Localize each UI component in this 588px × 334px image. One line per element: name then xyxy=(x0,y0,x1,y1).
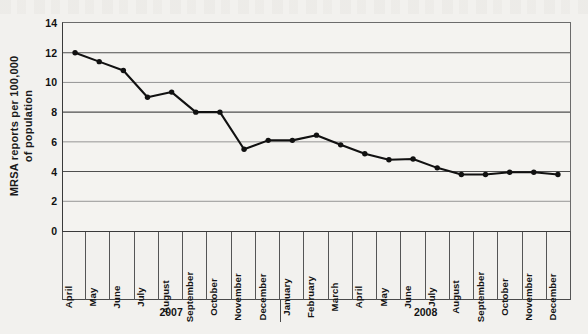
y-axis-title: MRSA reports per 100,000 of population xyxy=(2,18,40,234)
data-point xyxy=(266,138,271,143)
x-axis-month-cell: August xyxy=(159,232,183,300)
data-point xyxy=(169,89,174,94)
y-axis-title-line-2: of population xyxy=(21,56,35,197)
data-point xyxy=(410,156,415,161)
data-point xyxy=(290,138,295,143)
y-tick-12: 12 xyxy=(45,47,57,59)
x-axis-year-groups: 20072008 xyxy=(62,300,571,330)
year-divider xyxy=(280,300,281,322)
gridlines xyxy=(63,53,570,202)
year-group-2007: 2007 xyxy=(62,300,280,330)
x-axis-month-cell: August xyxy=(450,232,474,300)
data-point xyxy=(483,172,488,177)
data-markers xyxy=(72,50,560,177)
y-tick-4: 4 xyxy=(51,166,57,178)
x-axis-month-cell: November xyxy=(232,232,256,300)
data-point xyxy=(531,170,536,175)
scan-bleed-artifact xyxy=(0,0,588,14)
x-axis-month-cell: February xyxy=(304,232,328,300)
x-axis-month-cell: May xyxy=(86,232,110,300)
data-point xyxy=(193,109,198,114)
y-axis-title-line-1: MRSA reports per 100,000 xyxy=(8,56,22,197)
x-axis-month-cell: June xyxy=(110,232,134,300)
x-axis-month-cell: September xyxy=(474,232,498,300)
y-tick-6: 6 xyxy=(51,136,57,148)
x-axis-month-cell: October xyxy=(498,232,522,300)
data-point xyxy=(72,50,77,55)
data-point xyxy=(435,165,440,170)
data-point xyxy=(555,172,560,177)
x-axis-month-cell: July xyxy=(135,232,159,300)
year-label: 2008 xyxy=(414,306,437,318)
x-axis-month-cell: April xyxy=(62,232,86,300)
data-point xyxy=(362,151,367,156)
data-point xyxy=(459,172,464,177)
x-axis-month-cell: July xyxy=(426,232,450,300)
data-point xyxy=(97,59,102,64)
data-point xyxy=(507,170,512,175)
data-point xyxy=(217,109,222,114)
data-point xyxy=(338,142,343,147)
year-group-2008: 2008 xyxy=(280,300,571,330)
x-axis-month-labels: AprilMayJuneJulyAugustSeptemberOctoberNo… xyxy=(62,232,571,300)
x-axis-month-cell: September xyxy=(183,232,207,300)
x-axis-month-cell: June xyxy=(401,232,425,300)
x-axis-month-cell: May xyxy=(377,232,401,300)
y-tick-10: 10 xyxy=(45,76,57,88)
y-tick-8: 8 xyxy=(51,106,57,118)
x-axis-month-cell: December xyxy=(256,232,280,300)
chart-figure: MRSA reports per 100,000 of population 1… xyxy=(0,0,588,334)
data-point xyxy=(121,68,126,73)
data-point xyxy=(386,157,391,162)
y-tick-0: 0 xyxy=(51,225,57,237)
x-axis-month-cell: October xyxy=(207,232,231,300)
y-axis-tick-labels: 14121086420 xyxy=(36,0,60,334)
data-point xyxy=(145,95,150,100)
x-axis-month-cell: January xyxy=(280,232,304,300)
y-tick-14: 14 xyxy=(45,17,57,29)
plot-area xyxy=(62,22,571,232)
data-point xyxy=(241,147,246,152)
year-label: 2007 xyxy=(159,306,182,318)
data-point xyxy=(314,132,319,137)
line-chart-svg xyxy=(63,23,570,231)
y-tick-2: 2 xyxy=(51,195,57,207)
x-axis-month-cell: December xyxy=(547,232,571,300)
x-axis-month-cell: March xyxy=(329,232,353,300)
x-axis-month-cell: April xyxy=(353,232,377,300)
data-line-mrsa xyxy=(75,53,558,175)
x-axis-month-cell: November xyxy=(523,232,547,300)
